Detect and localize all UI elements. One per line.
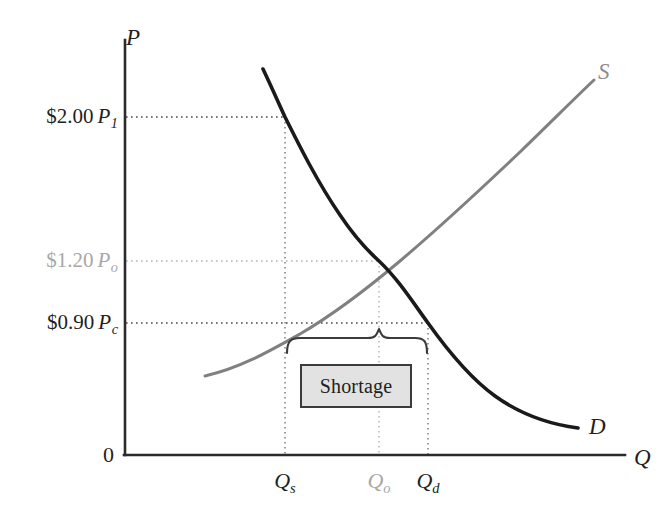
quantity-label-qs: Qs	[260, 470, 310, 496]
quantity-symbol-qd: Q	[416, 468, 432, 493]
price-label-p0: $1.20Po	[0, 250, 118, 274]
price-symbol-p0: P	[98, 248, 111, 272]
shortage-annotation-box: Shortage	[300, 364, 412, 408]
price-value-p1: $2.00	[46, 104, 93, 128]
price-value-pc: $0.90	[47, 310, 94, 334]
quantity-symbol-qo: Q	[367, 468, 383, 493]
price-label-pc: $0.90Pc	[0, 312, 118, 336]
quantity-label-qd: Qd	[403, 470, 453, 496]
x-axis-label: Q	[634, 446, 651, 469]
y-axis-label: P	[126, 26, 140, 49]
price-guide-lines	[126, 117, 428, 323]
quantity-subscript-qd: d	[432, 480, 439, 496]
price-symbol-p1: P	[98, 104, 111, 128]
price-label-p1: $2.00P1	[0, 106, 118, 130]
price-symbol-pc: P	[98, 310, 111, 334]
price-subscript-p0: o	[111, 259, 118, 275]
supply-curve-label: S	[598, 60, 610, 83]
shortage-label: Shortage	[320, 375, 393, 398]
price-subscript-pc: c	[112, 321, 118, 337]
price-value-p0: $1.20	[46, 248, 93, 272]
shortage-brace	[287, 329, 427, 353]
supply-curve	[205, 80, 594, 376]
quantity-subscript-qs: s	[290, 480, 296, 496]
price-subscript-p1: 1	[111, 115, 118, 131]
quantity-subscript-qo: o	[383, 480, 390, 496]
quantity-symbol-qs: Q	[274, 468, 290, 493]
origin-label: 0	[103, 444, 114, 466]
demand-curve-label: D	[589, 415, 606, 438]
supply-demand-chart: P Q 0 $2.00P1 $1.20Po $0.90Pc Qs Qo Qd S…	[0, 0, 671, 520]
quantity-label-qo: Qo	[354, 470, 404, 496]
